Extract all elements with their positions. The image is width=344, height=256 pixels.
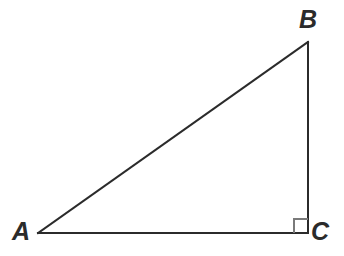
vertex-label-b: B [299,7,317,32]
triangle-drawing [0,0,344,256]
side-AB-hypotenuse [38,42,308,233]
geometry-figure: A B C [0,0,344,256]
vertex-label-a: A [12,219,30,244]
vertex-label-c: C [311,219,329,244]
right-angle-mark-icon [294,219,308,233]
